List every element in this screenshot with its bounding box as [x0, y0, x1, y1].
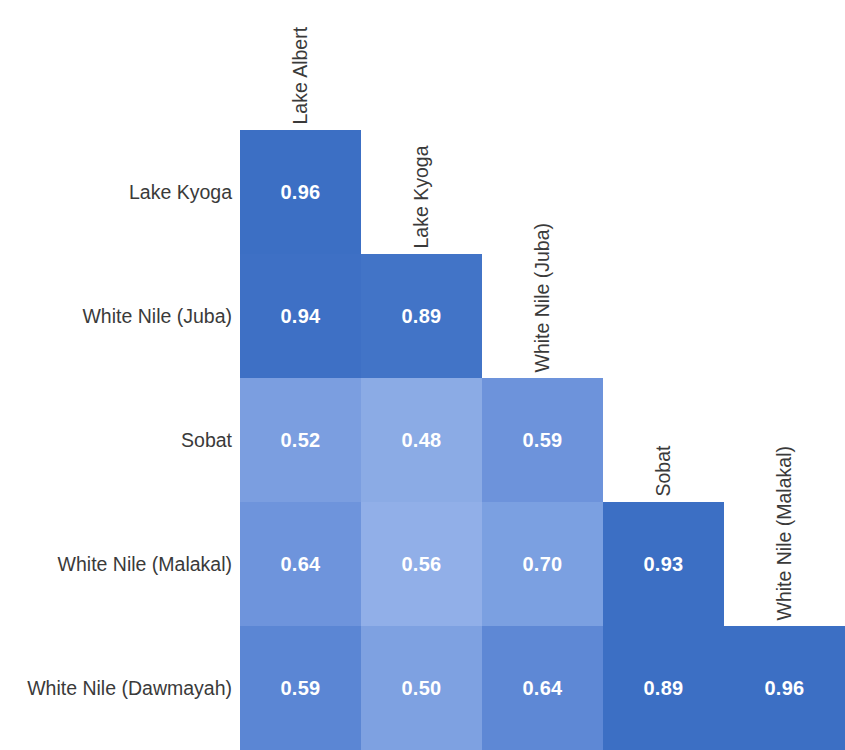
- cell-value-label: 0.50: [401, 678, 441, 698]
- heatmap-cell: 0.52: [240, 378, 361, 502]
- cell-value-label: 0.59: [280, 678, 320, 698]
- row-label-white-nile-malakal: White Nile (Malakal): [0, 502, 240, 626]
- row-label-sobat: Sobat: [0, 378, 240, 502]
- cell-value-label: 0.96: [280, 182, 320, 202]
- column-header-lake-kyoga: Lake Kyoga: [361, 0, 482, 248]
- column-header-lake-albert: Lake Albert: [240, 0, 361, 124]
- heatmap-cell: 0.93: [603, 502, 724, 626]
- cell-value-label: 0.64: [522, 678, 562, 698]
- cell-value-label: 0.59: [522, 430, 562, 450]
- heatmap-cell: 0.94: [240, 254, 361, 378]
- cell-value-label: 0.93: [643, 554, 683, 574]
- cell-value-label: 0.70: [522, 554, 562, 574]
- heatmap-cell: 0.89: [603, 626, 724, 750]
- row-label-white-nile-dawmayah: White Nile (Dawmayah): [0, 626, 240, 750]
- heatmap-cell: 0.89: [361, 254, 482, 378]
- column-header-label: White Nile (Malakal): [775, 446, 795, 620]
- column-header-label: White Nile (Juba): [533, 222, 553, 372]
- heatmap-cell: 0.59: [240, 626, 361, 750]
- row-label-white-nile-juba: White Nile (Juba): [0, 254, 240, 378]
- heatmap-cell: 0.96: [724, 626, 845, 750]
- heatmap-cell: 0.48: [361, 378, 482, 502]
- row-label-lake-kyoga: Lake Kyoga: [0, 130, 240, 254]
- column-header-white-nile-malakal: White Nile (Malakal): [724, 0, 845, 620]
- heatmap-cell: 0.70: [482, 502, 603, 626]
- cell-value-label: 0.89: [401, 306, 441, 326]
- heatmap-cell: 0.64: [482, 626, 603, 750]
- cell-value-label: 0.52: [280, 430, 320, 450]
- column-header-label: Lake Kyoga: [412, 145, 432, 248]
- heatmap-cell: 0.64: [240, 502, 361, 626]
- column-header-label: Lake Albert: [291, 26, 311, 124]
- heatmap-cell: 0.96: [240, 130, 361, 254]
- cell-value-label: 0.56: [401, 554, 441, 574]
- cell-value-label: 0.64: [280, 554, 320, 574]
- heatmap-cell: 0.50: [361, 626, 482, 750]
- cell-value-label: 0.94: [280, 306, 320, 326]
- column-header-white-nile-juba: White Nile (Juba): [482, 0, 603, 372]
- heatmap-cell: 0.59: [482, 378, 603, 502]
- cell-value-label: 0.89: [643, 678, 683, 698]
- cell-value-label: 0.96: [764, 678, 804, 698]
- column-header-label: Sobat: [654, 445, 674, 496]
- cell-value-label: 0.48: [401, 430, 441, 450]
- column-header-sobat: Sobat: [603, 0, 724, 496]
- heatmap-cell: 0.56: [361, 502, 482, 626]
